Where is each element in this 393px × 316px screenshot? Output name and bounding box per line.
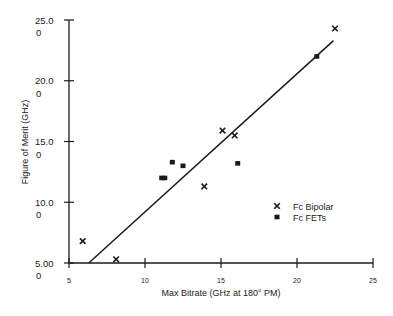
x-tick-label: 15: [217, 277, 225, 284]
scatter-chart: 5.00010.0015.0020.0025.00 510152025 Max …: [0, 0, 393, 316]
y-tick-label-suffix: 0: [36, 27, 41, 38]
bipolar-point: [332, 26, 338, 32]
y-tick-label-suffix: 0: [36, 270, 41, 281]
bipolar-point: [113, 257, 119, 263]
bipolar-point: [220, 128, 226, 134]
axes: [69, 20, 373, 263]
x-tick-label: 5: [67, 277, 71, 284]
legend-label: Fc Bipolar: [293, 202, 334, 212]
legend-label: Fc FETs: [293, 213, 326, 223]
y-tick-label: 15.0: [35, 136, 54, 147]
legend-bipolar-marker: [274, 203, 280, 209]
fet-point: [162, 176, 167, 181]
y-axis-title: Figure of Merit (GHz): [20, 100, 30, 185]
y-ticks: 5.00010.0015.0020.0025.00: [35, 15, 74, 282]
y-tick-label: 5.00: [35, 258, 54, 269]
y-tick-label-suffix: 0: [36, 149, 41, 160]
x-tick-label: 25: [369, 277, 377, 284]
bipolar-point: [232, 133, 238, 139]
fet-point: [235, 161, 240, 166]
legend-fet-marker: [275, 215, 280, 220]
data-points: [80, 26, 338, 262]
bipolar-point: [201, 184, 207, 190]
legend: Fc BipolarFc FETs: [274, 202, 333, 223]
y-tick-label: 25.0: [35, 15, 54, 26]
x-tick-label: 10: [141, 277, 149, 284]
y-tick-label: 20.0: [35, 75, 54, 86]
x-tick-label: 20: [293, 277, 301, 284]
fit-line: [89, 41, 334, 263]
y-tick-label: 10.0: [35, 197, 54, 208]
fit-line-group: [89, 41, 334, 263]
y-tick-label-suffix: 0: [36, 88, 41, 99]
x-axis-title: Max Bitrate (GHz at 180° PM): [161, 288, 280, 298]
fet-point: [314, 54, 319, 59]
y-tick-label-suffix: 0: [36, 209, 41, 220]
fet-point: [181, 164, 186, 169]
bipolar-point: [80, 238, 86, 244]
fet-point: [170, 160, 175, 165]
